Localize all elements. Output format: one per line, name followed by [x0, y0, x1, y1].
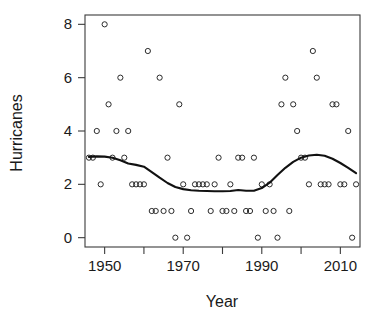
data-point	[98, 182, 103, 187]
y-tick-label: 8	[64, 15, 72, 32]
data-point	[310, 48, 315, 53]
data-point	[114, 128, 119, 133]
x-axis-tick-labels: 1950197019902010	[88, 257, 357, 274]
x-tick-label: 1990	[245, 257, 278, 274]
data-points	[86, 22, 358, 241]
scatter-plot-canvas: 1950197019902010 02468 Year Hurricanes	[0, 0, 382, 324]
y-axis-tick-labels: 02468	[64, 15, 72, 245]
data-point	[212, 182, 217, 187]
data-point	[287, 208, 292, 213]
data-point	[161, 208, 166, 213]
data-point	[185, 235, 190, 240]
data-point	[314, 75, 319, 80]
y-axis-title: Hurricanes	[8, 94, 25, 171]
data-point	[177, 102, 182, 107]
data-point	[263, 208, 268, 213]
data-point	[271, 208, 276, 213]
data-point	[165, 155, 170, 160]
plot-frame	[85, 15, 360, 247]
x-axis-title: Year	[206, 293, 239, 310]
chart-figure: 1950197019902010 02468 Year Hurricanes	[0, 0, 382, 324]
data-point	[291, 102, 296, 107]
data-point	[106, 102, 111, 107]
data-point	[157, 75, 162, 80]
data-point	[169, 208, 174, 213]
data-point	[279, 102, 284, 107]
data-point	[102, 22, 107, 27]
data-point	[255, 235, 260, 240]
data-point	[353, 182, 358, 187]
x-axis-ticks	[105, 247, 341, 254]
data-point	[228, 182, 233, 187]
data-point	[94, 128, 99, 133]
data-point	[216, 155, 221, 160]
x-tick-label: 2010	[324, 257, 357, 274]
y-tick-label: 4	[64, 122, 72, 139]
data-point	[346, 128, 351, 133]
data-point	[295, 128, 300, 133]
data-point	[122, 155, 127, 160]
data-point	[208, 208, 213, 213]
data-point	[275, 235, 280, 240]
plot-box	[85, 15, 360, 247]
data-point	[350, 235, 355, 240]
data-point	[251, 155, 256, 160]
data-point	[306, 182, 311, 187]
y-tick-label: 0	[64, 229, 72, 246]
loess-trend-line	[89, 155, 356, 192]
data-point	[188, 208, 193, 213]
data-point	[173, 235, 178, 240]
y-tick-label: 6	[64, 69, 72, 86]
data-point	[145, 48, 150, 53]
data-point	[126, 128, 131, 133]
trend-line-path	[89, 155, 356, 192]
x-tick-label: 1970	[167, 257, 200, 274]
data-point	[181, 182, 186, 187]
x-tick-label: 1950	[88, 257, 121, 274]
data-point	[232, 208, 237, 213]
data-point	[283, 75, 288, 80]
y-tick-label: 2	[64, 175, 72, 192]
y-axis-ticks	[78, 24, 85, 237]
data-point	[118, 75, 123, 80]
